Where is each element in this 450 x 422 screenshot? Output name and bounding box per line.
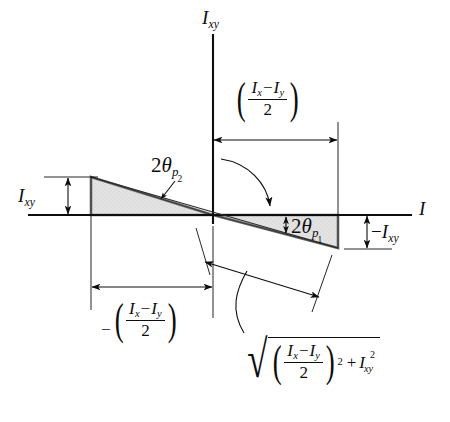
right-neg-ixy-label: −Ixy (371, 222, 399, 245)
radius-denominator: 2 (284, 363, 323, 382)
top-dimension-paren-close: ) (290, 77, 299, 120)
radius-plus: + (347, 354, 357, 371)
diagram-vector-layer (0, 0, 450, 422)
radical-sign: √ (247, 339, 267, 386)
bottom-dimension-num-second: I (151, 299, 157, 318)
right-neg-ixy-sign: − (371, 221, 382, 242)
angle-2theta-p1-label: 2θp1 (291, 216, 322, 245)
radius-paren-close: ) (326, 340, 335, 383)
radius-extension-left (196, 228, 210, 275)
mohrs-circle-inertia-diagram: Ixy I Ixy −Ixy 2θp2 2θp1 ( Ix−Iy 2 ) (0, 0, 450, 422)
bottom-dimension-num-first: I (129, 299, 135, 318)
horizontal-axis-label: I (419, 199, 425, 218)
radius-num-first-sub: x (293, 350, 298, 361)
angle-2theta-p2-subsub: 2 (178, 174, 183, 184)
left-ixy-label-main: I (18, 185, 24, 206)
top-dimension-label: ( Ix−Iy 2 ) (234, 78, 302, 121)
top-dimension-minus: − (263, 78, 273, 97)
radius-expression-label: √ ( Ix−Iy 2 ) 2+ Ixy2 (243, 337, 380, 384)
vertical-axis-label: Ixy (202, 8, 219, 31)
right-neg-ixy-sub: xy (388, 232, 398, 245)
top-dimension-num-second-sub: y (279, 87, 284, 98)
angle-2theta-p2-greek: θ (162, 153, 172, 177)
angle-2theta-p2-label: 2θp2 (151, 155, 182, 184)
radius-minus: − (299, 341, 309, 360)
radius-dimension-arrow (205, 262, 319, 297)
bottom-dimension-leading-minus: − (101, 320, 111, 339)
radius-extension-right (312, 255, 332, 312)
angle-2theta-p2-arc (221, 159, 270, 206)
bottom-dimension-num-second-sub: y (157, 308, 162, 319)
radius-term-sub: xy (364, 364, 373, 374)
bottom-dimension-paren-close: ) (167, 298, 176, 341)
bottom-dimension-minus: − (141, 299, 151, 318)
radius-term-sup: 2 (370, 350, 375, 360)
radius-num-second-sub: y (315, 350, 320, 361)
bottom-dimension-label: − ( Ix−Iy 2 ) (101, 299, 179, 342)
horizontal-axis-label-main: I (419, 198, 425, 219)
radius-fraction: Ix−Iy 2 (284, 342, 323, 382)
vertical-axis-label-sub: xy (209, 18, 219, 31)
left-ixy-label: Ixy (18, 186, 35, 209)
radius-paren-power: 2 (337, 357, 342, 368)
radicand: ( Ix−Iy 2 ) 2+ Ixy2 (268, 337, 380, 384)
angle-2theta-p1-coef: 2 (291, 214, 302, 238)
bottom-dimension-paren-open: ( (114, 298, 123, 341)
top-dimension-num-first-sub: x (257, 87, 262, 98)
top-dimension-denominator: 2 (248, 100, 287, 119)
bottom-dimension-fraction: Ix−Iy 2 (126, 300, 165, 340)
top-dimension-paren-open: ( (237, 77, 246, 120)
angle-2theta-p1-subsub: 1 (318, 235, 323, 245)
radius-paren-open: ( (273, 340, 282, 383)
bottom-dimension-denominator: 2 (126, 321, 165, 340)
angle-2theta-p2-coef: 2 (151, 153, 162, 177)
left-ixy-label-sub: xy (25, 196, 35, 209)
top-dimension-fraction: Ix−Iy 2 (248, 79, 287, 119)
angle-2theta-p1-greek: θ (302, 214, 312, 238)
radius-leader-curve (236, 271, 247, 333)
bottom-dimension-num-first-sub: x (135, 308, 140, 319)
vertical-axis-label-main: I (202, 7, 208, 28)
